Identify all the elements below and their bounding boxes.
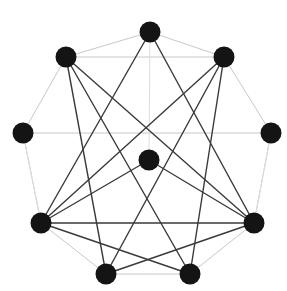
graph-node (180, 264, 201, 285)
graph-node (139, 150, 160, 171)
graph-figure (0, 0, 287, 291)
graph-node (244, 213, 265, 234)
graph-node (13, 123, 34, 144)
graph-node (140, 22, 161, 43)
graph-node (261, 123, 282, 144)
graph-node (96, 264, 117, 285)
graph-node (214, 47, 235, 68)
graph-node (31, 213, 52, 234)
graph-canvas (0, 0, 287, 291)
graph-node (56, 47, 77, 68)
